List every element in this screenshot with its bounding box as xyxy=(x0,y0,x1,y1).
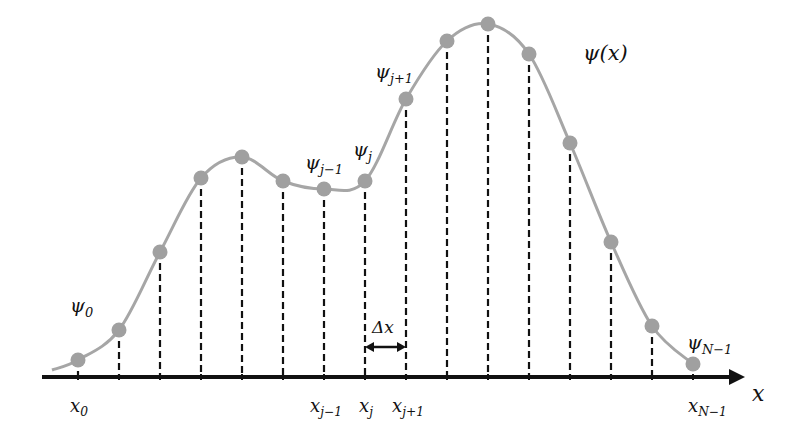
arrow-left-icon xyxy=(365,342,374,352)
x-symbol: x xyxy=(392,395,402,416)
x-subscript: j−1 xyxy=(320,405,342,419)
x-subscript: N−1 xyxy=(698,405,727,419)
x-label-j: xj xyxy=(359,397,373,419)
psi-label-j-minus-1: ψj−1 xyxy=(305,153,343,176)
sample-point xyxy=(645,319,660,334)
psi-of-x-label: ψ(x) xyxy=(583,43,628,64)
psi-label-j: ψj xyxy=(353,140,372,163)
sample-point xyxy=(358,174,373,189)
x-label-0: x0 xyxy=(70,397,88,419)
delta-x-arrow xyxy=(365,342,406,352)
sample-point xyxy=(686,357,701,372)
sample-point xyxy=(481,17,496,32)
sample-point xyxy=(399,92,414,107)
psi-label-n-minus-1: ψN−1 xyxy=(687,333,732,356)
psi-of-x-text: ψ(x) xyxy=(583,41,628,65)
sample-point xyxy=(563,136,578,151)
sample-point xyxy=(112,323,127,338)
x-label-j-minus-1: xj−1 xyxy=(310,397,342,419)
sample-point xyxy=(276,174,291,189)
psi-symbol: ψ xyxy=(305,151,320,173)
sample-point xyxy=(235,150,250,165)
sample-point xyxy=(317,182,332,197)
psi-label-j-plus-1: ψj+1 xyxy=(375,62,413,85)
psi-subscript: 0 xyxy=(85,305,93,320)
x-label-j-plus-1: xj+1 xyxy=(392,397,424,419)
x-axis-arrowhead-icon xyxy=(729,369,745,385)
x-subscript: 0 xyxy=(80,405,88,419)
psi-subscript: N−1 xyxy=(702,342,732,357)
sample-point xyxy=(604,235,619,250)
psi-symbol: ψ xyxy=(70,294,85,316)
psi-symbol: ψ xyxy=(375,60,390,82)
sample-point xyxy=(153,245,168,260)
x-axis-text: x xyxy=(752,381,764,406)
psi-symbol: ψ xyxy=(687,331,702,353)
sample-point xyxy=(522,47,537,62)
psi-label-0: ψ0 xyxy=(70,296,93,319)
delta-x-label: Δx xyxy=(372,319,394,336)
x-axis-label: x xyxy=(752,383,764,405)
sample-point xyxy=(440,34,455,49)
x-symbol: x xyxy=(688,395,698,416)
psi-symbol: ψ xyxy=(353,138,368,160)
delta-x-text: Δx xyxy=(372,317,394,337)
psi-subscript: j xyxy=(368,149,372,164)
sample-point xyxy=(71,353,86,368)
psi-subscript: j−1 xyxy=(320,162,343,177)
x-symbol: x xyxy=(310,395,320,416)
x-label-n-minus-1: xN−1 xyxy=(688,397,727,419)
psi-subscript: j+1 xyxy=(390,71,413,86)
x-subscript: j xyxy=(369,405,373,419)
x-subscript: j+1 xyxy=(402,405,424,419)
arrow-right-icon xyxy=(397,342,406,352)
x-symbol: x xyxy=(359,395,369,416)
sample-point xyxy=(194,171,209,186)
x-symbol: x xyxy=(70,395,80,416)
